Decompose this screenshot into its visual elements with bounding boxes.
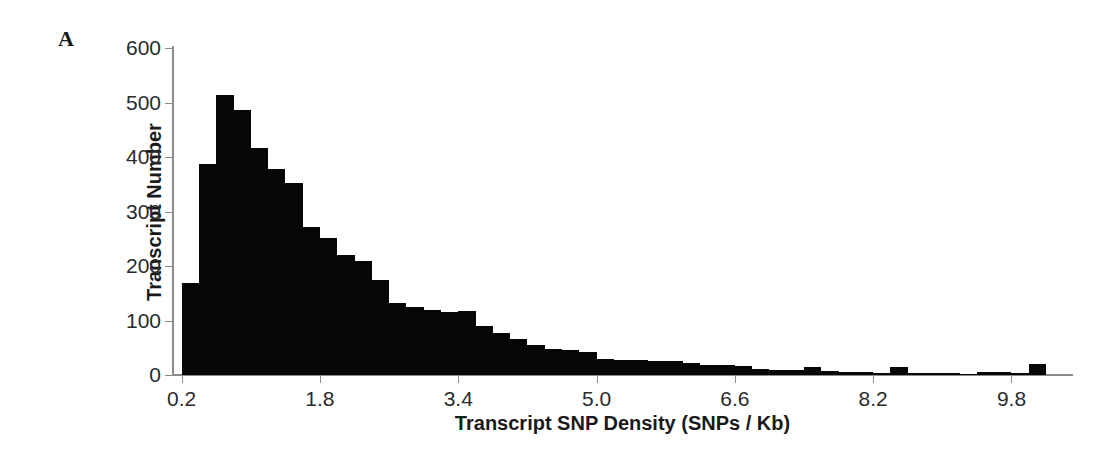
histogram-bar — [285, 183, 302, 375]
histogram-bar — [769, 370, 786, 375]
x-tick-mark — [182, 375, 183, 383]
histogram-bar — [320, 238, 337, 375]
histogram-bar — [579, 352, 596, 375]
histogram-bar — [389, 303, 406, 375]
histogram-bar — [994, 372, 1011, 375]
y-tick-mark — [165, 212, 173, 213]
histogram-bar — [804, 367, 821, 375]
histogram-bar — [718, 365, 735, 375]
x-tick-mark — [320, 375, 321, 383]
y-tick-mark — [165, 266, 173, 267]
histogram-bar — [337, 255, 354, 375]
x-tick-label: 1.8 — [305, 387, 334, 411]
histogram-bar — [562, 350, 579, 375]
histogram-bar — [458, 311, 475, 375]
histogram-bar — [251, 148, 268, 375]
histogram-bars — [173, 48, 1072, 375]
histogram-bar — [752, 369, 769, 375]
panel-label: A — [58, 28, 74, 50]
histogram-bar — [527, 345, 544, 375]
histogram-bar — [199, 164, 216, 375]
histogram-bar — [735, 366, 752, 375]
histogram-bar — [787, 370, 804, 375]
histogram-bar — [1011, 373, 1028, 375]
histogram-bar — [925, 373, 942, 375]
x-tick-label: 9.8 — [997, 387, 1026, 411]
y-tick-mark — [165, 375, 173, 376]
histogram-bar — [631, 360, 648, 375]
histogram-bar — [216, 95, 233, 375]
histogram-bar — [839, 372, 856, 375]
figure-panel-a: A Transcript Number 0100200300400500600 … — [0, 0, 1102, 461]
x-tick-mark — [873, 375, 874, 383]
y-tick-label: 500 — [126, 91, 161, 115]
x-tick-label: 3.4 — [444, 387, 473, 411]
histogram-bar — [424, 310, 441, 375]
y-tick-label: 300 — [126, 200, 161, 224]
histogram-bar — [510, 339, 527, 375]
histogram-bar — [908, 373, 925, 375]
histogram-bar — [873, 373, 890, 375]
x-tick-mark — [597, 375, 598, 383]
histogram-bar — [683, 363, 700, 375]
x-tick-mark — [1011, 375, 1012, 383]
histogram-bar — [476, 326, 493, 375]
x-tick-mark — [735, 375, 736, 383]
x-tick-label: 8.2 — [859, 387, 888, 411]
histogram-bar — [372, 280, 389, 375]
histogram-bar — [856, 372, 873, 375]
y-tick-mark — [165, 48, 173, 49]
y-tick-mark — [165, 157, 173, 158]
histogram-bar — [614, 360, 631, 375]
histogram-bar — [648, 361, 665, 375]
histogram-bar — [268, 169, 285, 375]
x-tick-label: 6.6 — [720, 387, 749, 411]
histogram-bar — [942, 373, 959, 375]
y-tick-label: 0 — [149, 363, 161, 387]
y-tick-label: 600 — [126, 36, 161, 60]
x-tick-mark — [458, 375, 459, 383]
histogram-bar — [597, 359, 614, 375]
histogram-bar — [1029, 364, 1046, 375]
histogram-bar — [821, 371, 838, 375]
y-tick-mark — [165, 103, 173, 104]
histogram-bar — [960, 374, 977, 376]
histogram-bar — [355, 261, 372, 375]
y-tick-label: 100 — [126, 309, 161, 333]
histogram-bar — [406, 307, 423, 375]
histogram-bar — [441, 312, 458, 375]
histogram-bar — [890, 367, 907, 375]
x-axis-title: Transcript SNP Density (SNPs / Kb) — [173, 412, 1072, 435]
histogram-bar — [493, 333, 510, 376]
y-tick-label: 400 — [126, 145, 161, 169]
y-tick-label: 200 — [126, 254, 161, 278]
histogram-bar — [303, 227, 320, 375]
histogram-bar — [977, 372, 994, 375]
plot-area: 0100200300400500600 0.21.83.45.06.68.29.… — [173, 48, 1072, 375]
x-tick-label: 5.0 — [582, 387, 611, 411]
histogram-bar — [700, 365, 717, 375]
histogram-bar — [666, 361, 683, 375]
histogram-bar — [545, 349, 562, 375]
histogram-bar — [234, 110, 251, 375]
x-tick-label: 0.2 — [167, 387, 196, 411]
y-tick-mark — [165, 321, 173, 322]
histogram-bar — [182, 283, 199, 375]
